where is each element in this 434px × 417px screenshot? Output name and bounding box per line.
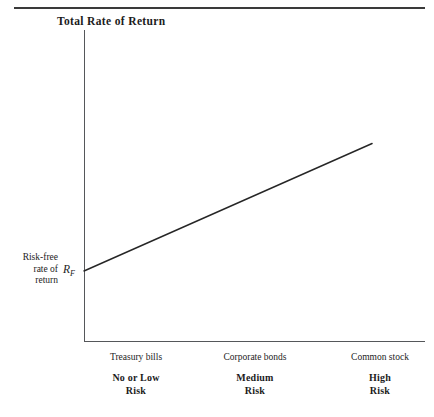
- x-axis-risk-label-line-2: Risk: [185, 385, 325, 398]
- y-axis-label: Risk-free rate of return: [4, 252, 58, 287]
- x-axis-risk-label: Medium Risk: [185, 372, 325, 397]
- y-axis-label-line-2: rate of: [4, 264, 58, 276]
- y-axis-label-line-3: return: [4, 275, 58, 287]
- x-axis-category-corporate-bonds: Corporate bonds Medium Risk: [185, 351, 325, 397]
- x-axis-instrument-label: Corporate bonds: [185, 351, 325, 363]
- risk-free-rate-symbol: RF: [63, 263, 75, 280]
- risk-return-figure: Total Rate of Return Risk-free rate of r…: [0, 0, 434, 417]
- x-axis-instrument-label: Common stock: [310, 351, 434, 363]
- risk-free-symbol-subscript: F: [70, 269, 75, 278]
- risk-free-symbol-base: R: [63, 263, 70, 275]
- x-axis-category-common-stock: Common stock High Risk: [310, 351, 434, 397]
- x-axis-risk-label-line-1: High: [310, 372, 434, 385]
- x-axis-risk-label-line-2: Risk: [310, 385, 434, 398]
- x-axis-risk-label: High Risk: [310, 372, 434, 397]
- risk-return-line: [84, 144, 372, 272]
- x-axis-risk-label-line-1: Medium: [185, 372, 325, 385]
- y-axis-label-line-1: Risk-free: [4, 252, 58, 264]
